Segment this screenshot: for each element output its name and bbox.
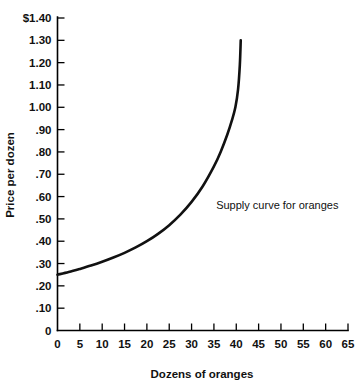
y-tick-label: .70 bbox=[36, 168, 52, 180]
x-axis-title: Dozens of oranges bbox=[151, 368, 254, 380]
x-tick-label: 0 bbox=[54, 338, 60, 350]
x-tick-label: 30 bbox=[185, 338, 198, 350]
y-tick-label: .50 bbox=[36, 213, 52, 225]
y-tick-label: .10 bbox=[36, 302, 52, 314]
y-tick-label: 1.20 bbox=[29, 57, 51, 69]
y-tick-label: 1.00 bbox=[29, 101, 51, 113]
y-tick-label: .60 bbox=[36, 191, 52, 203]
y-axis-tick-labels: 0.10.20.30.40.50.60.70.80.901.001.101.20… bbox=[23, 12, 52, 337]
annotation-group: Supply curve for oranges bbox=[216, 199, 339, 211]
x-tick-label: 40 bbox=[230, 338, 243, 350]
series-group bbox=[58, 40, 241, 274]
y-tick-label: $1.40 bbox=[23, 12, 52, 24]
x-tick-label: 25 bbox=[163, 338, 176, 350]
y-tick-label: .30 bbox=[36, 258, 52, 270]
y-tick-label: .80 bbox=[36, 146, 52, 158]
x-axis-ticks bbox=[80, 324, 348, 331]
x-tick-label: 10 bbox=[96, 338, 109, 350]
y-axis-title: Price per dozen bbox=[4, 132, 16, 218]
x-axis-tick-labels: 05101520253035404550556065 bbox=[54, 338, 355, 350]
x-tick-label: 20 bbox=[140, 338, 153, 350]
y-tick-label: .20 bbox=[36, 280, 52, 292]
y-tick-label: 0 bbox=[45, 325, 51, 337]
x-tick-label: 55 bbox=[297, 338, 310, 350]
x-tick-label: 45 bbox=[252, 338, 265, 350]
y-tick-label: 1.10 bbox=[29, 79, 51, 91]
x-tick-label: 15 bbox=[118, 338, 131, 350]
x-tick-label: 35 bbox=[208, 338, 221, 350]
x-tick-label: 50 bbox=[275, 338, 288, 350]
supply-curve-line bbox=[58, 40, 241, 274]
x-tick-label: 65 bbox=[342, 338, 355, 350]
chart-canvas: 0.10.20.30.40.50.60.70.80.901.001.101.20… bbox=[0, 0, 359, 386]
y-axis-group: 0.10.20.30.40.50.60.70.80.901.001.101.20… bbox=[23, 12, 65, 337]
y-axis-ticks bbox=[58, 18, 65, 308]
x-tick-label: 5 bbox=[77, 338, 84, 350]
x-axis-group: 05101520253035404550556065 bbox=[54, 324, 355, 350]
y-tick-label: .90 bbox=[36, 124, 52, 136]
supply-curve-annotation: Supply curve for oranges bbox=[216, 199, 339, 211]
y-tick-label: 1.30 bbox=[29, 34, 51, 46]
y-tick-label: .40 bbox=[36, 235, 52, 247]
supply-curve-chart: 0.10.20.30.40.50.60.70.80.901.001.101.20… bbox=[0, 0, 359, 386]
x-tick-label: 60 bbox=[319, 338, 332, 350]
